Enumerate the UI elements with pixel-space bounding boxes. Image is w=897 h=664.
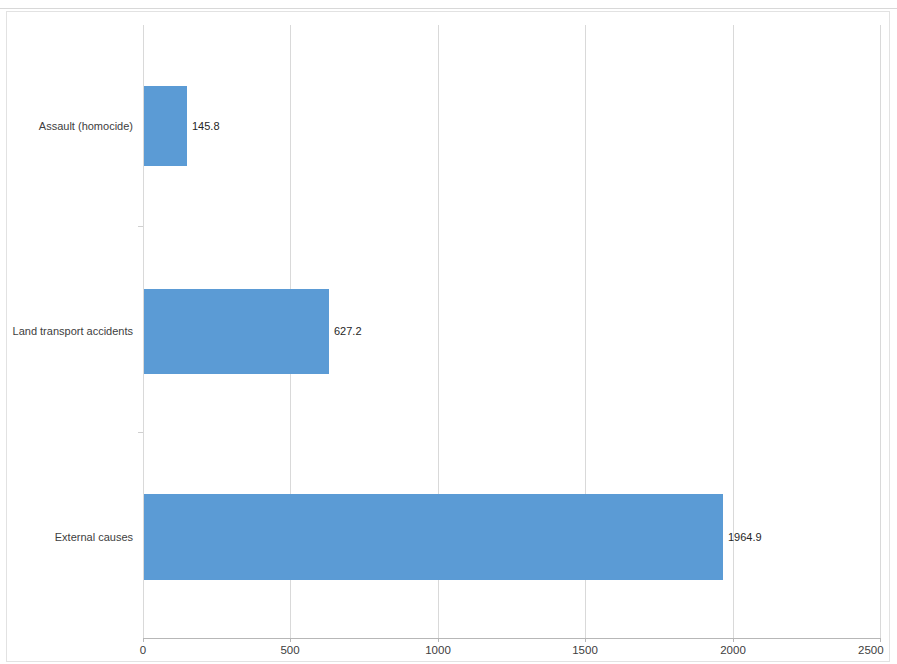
value-axis-line — [143, 638, 881, 639]
data-label-land-transport-accidents: 627.2 — [334, 326, 362, 337]
axis-tick-1000 — [438, 638, 439, 642]
bar-land-transport-accidents — [144, 289, 329, 374]
axis-tick-label-2000: 2000 — [713, 645, 753, 657]
category-label-assault-homocide: Assault (homocide) — [0, 121, 133, 132]
data-label-external-causes: 1964.9 — [728, 532, 762, 543]
gridline-2500 — [880, 25, 881, 638]
axis-tick-label-1000: 1000 — [418, 645, 458, 657]
category-tick-1 — [138, 226, 143, 227]
category-label-land-transport-accidents: Land transport accidents — [0, 326, 133, 337]
axis-tick-0 — [143, 638, 144, 642]
bar-chart: 145.8 627.2 1964.9 Assault (homocide) La… — [0, 0, 897, 664]
axis-tick-label-2500: 2500 — [858, 645, 897, 657]
axis-tick-label-0: 0 — [123, 645, 163, 657]
page-top-rule — [0, 8, 897, 9]
category-tick-2 — [138, 432, 143, 433]
data-label-assault-homocide: 145.8 — [192, 121, 220, 132]
bar-assault-homocide — [144, 86, 187, 166]
axis-tick-500 — [290, 638, 291, 642]
gridline-2000 — [733, 25, 734, 638]
axis-tick-2500 — [880, 638, 881, 642]
axis-tick-2000 — [733, 638, 734, 642]
axis-tick-1500 — [585, 638, 586, 642]
category-label-external-causes: External causes — [0, 532, 133, 543]
axis-tick-label-1500: 1500 — [565, 645, 605, 657]
axis-tick-label-500: 500 — [270, 645, 310, 657]
bar-external-causes — [144, 494, 723, 580]
